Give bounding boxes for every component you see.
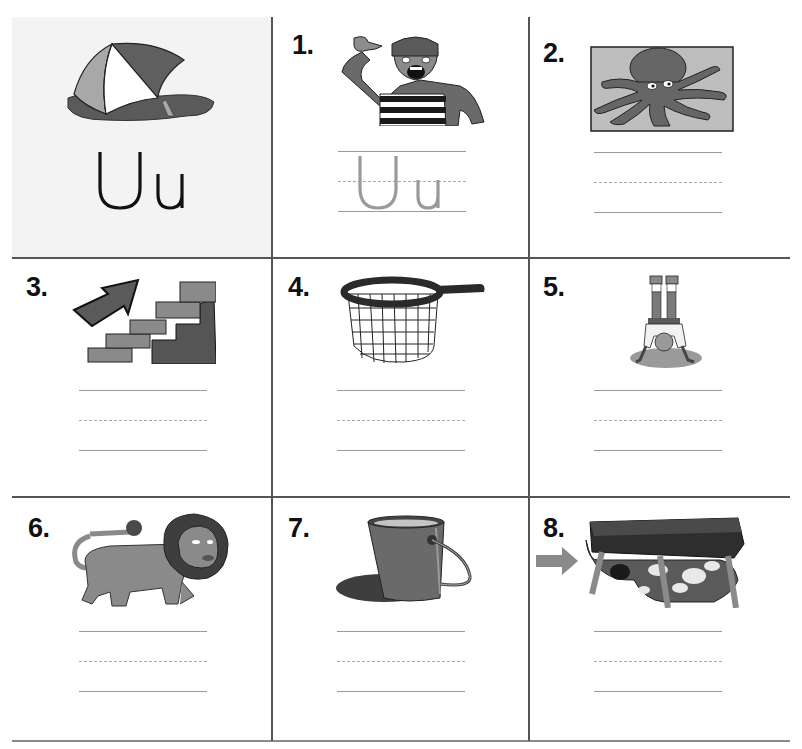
- item-3-writing-lines: [79, 389, 207, 453]
- dog-under-table-icon: [584, 516, 746, 608]
- item-1-number: 1.: [292, 30, 314, 61]
- item-5-writing-lines: [594, 389, 722, 453]
- item-4-number: 4.: [288, 272, 310, 303]
- umbrella-icon: [66, 36, 218, 122]
- lion-icon: [70, 512, 230, 610]
- item-6-writing-lines: [79, 630, 207, 694]
- bucket-icon: [336, 514, 474, 606]
- trace-letter-uu: [356, 154, 446, 212]
- item-8-number: 8.: [543, 513, 565, 544]
- item-3-number: 3.: [26, 272, 48, 303]
- arrow-right-icon: [536, 547, 578, 575]
- net-icon: [340, 276, 486, 364]
- grid-line-row3-bottom: [12, 740, 790, 742]
- mime-icon: [340, 32, 486, 126]
- item-7-number: 7.: [288, 513, 310, 544]
- key-letter-uu: [96, 150, 192, 212]
- upside-down-boy-icon: [628, 274, 704, 370]
- grid-line-col2-right: [528, 17, 530, 741]
- worksheet: Uu 1. Uu 2.: [0, 0, 802, 749]
- item-6-number: 6.: [28, 513, 50, 544]
- item-8-writing-lines: [594, 630, 722, 694]
- item-7-writing-lines: [337, 630, 465, 694]
- item-2-number: 2.: [543, 38, 565, 69]
- grid-line-col1-right: [271, 17, 273, 741]
- item-5-number: 5.: [543, 272, 565, 303]
- grid-line-row2-bottom: [12, 496, 790, 498]
- octopus-icon: [590, 46, 734, 132]
- stairs-up-arrow-icon: [72, 278, 216, 364]
- grid-line-row1-bottom: [12, 257, 790, 259]
- item-4-writing-lines: [337, 389, 465, 453]
- item-2-writing-lines: [594, 151, 722, 215]
